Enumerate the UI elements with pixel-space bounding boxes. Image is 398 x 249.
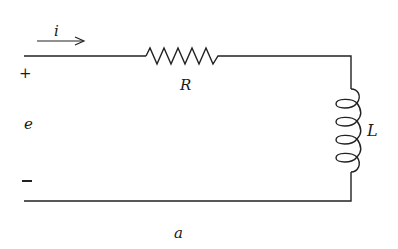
resistor-label: R — [179, 76, 191, 94]
current-arrow-icon — [37, 37, 84, 45]
bottom-wire — [24, 172, 351, 201]
top-wire-right — [224, 56, 351, 89]
inductor-icon — [336, 89, 361, 172]
inductor-label: L — [366, 121, 378, 140]
figure-caption: a — [174, 224, 183, 242]
resistor-icon — [146, 48, 224, 64]
plus-terminal: + — [19, 64, 32, 82]
rl-circuit-diagram: i R L + e a — [0, 0, 398, 249]
source-label: e — [24, 115, 33, 133]
current-label: i — [54, 22, 59, 40]
